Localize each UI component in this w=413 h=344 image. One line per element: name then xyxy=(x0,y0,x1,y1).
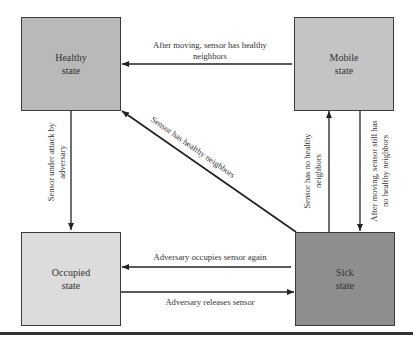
state-diagram: Healthy state Mobile state Occupied stat… xyxy=(0,0,413,344)
label-mobile-to-sick: After moving, sensor still has no health… xyxy=(369,106,391,236)
label-sick-to-mobile: Sensor has no healthy neighbors xyxy=(302,116,324,226)
state-healthy: Healthy state xyxy=(21,17,121,111)
state-mobile-label: Mobile state xyxy=(330,51,359,77)
label-occupied-to-sick: Adversary releases sensor xyxy=(130,297,290,308)
state-sick: Sick state xyxy=(295,232,395,326)
state-occupied-label: Occupied state xyxy=(52,266,90,292)
label-sick-to-occupied: Adversary occupies sensor again xyxy=(130,252,290,263)
state-healthy-label: Healthy state xyxy=(55,51,87,77)
state-occupied: Occupied state xyxy=(21,232,121,326)
state-mobile: Mobile state xyxy=(294,17,394,111)
arrow-sick-to-healthy xyxy=(122,111,296,232)
label-healthy-to-occupied: Sensor under attack by adversary xyxy=(46,107,68,217)
label-mobile-to-healthy: After moving, sensor has healthy neighbo… xyxy=(130,40,290,61)
bottom-rule xyxy=(0,332,413,335)
state-sick-label: Sick state xyxy=(336,266,354,292)
